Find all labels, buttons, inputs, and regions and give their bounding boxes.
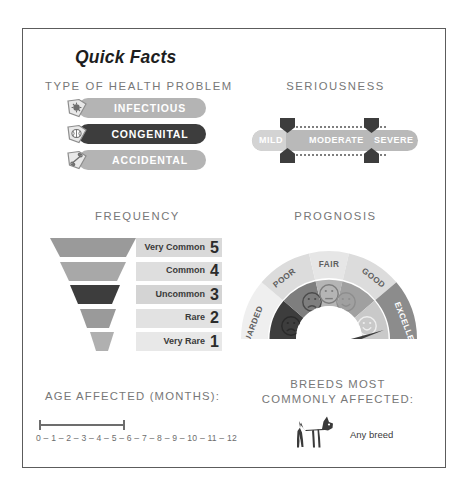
frequency-label-3: Uncommon	[156, 290, 206, 300]
frequency-bar-4	[60, 262, 126, 281]
seriousness-scale[interactable]: MILD MODERATE SEVERE	[252, 122, 418, 158]
breeds-affected: Any breed	[292, 414, 393, 454]
frequency-row-uncommon[interactable]: Uncommon 3	[50, 285, 222, 307]
frequency-row-very-rare[interactable]: Very Rare 1	[50, 332, 222, 354]
bone-shield-icon	[66, 150, 88, 170]
frequency-value-1: 1	[210, 334, 219, 350]
dog-silhouette-icon	[292, 414, 338, 454]
badge-accidental[interactable]: ACCIDENTAL	[66, 150, 206, 170]
frequency-label-4: Common	[166, 266, 205, 276]
badge-infectious-label: INFECTIOUS	[114, 102, 186, 114]
frequency-strip-5: Very Common 5	[136, 238, 222, 257]
badge-congenital[interactable]: CONGENITAL	[66, 124, 206, 144]
frequency-bar-1	[90, 332, 114, 351]
frequency-row-rare[interactable]: Rare 2	[50, 309, 222, 331]
section-header-seriousness: SERIOUSNESS	[258, 80, 413, 92]
age-axis-labels: 0 – 1 – 2 – 3 – 4 – 5 – 6 – 7 – 8 – 9 – …	[36, 433, 237, 443]
prognosis-gauge: GUARDED POOR FAIR GOOD EXCELLENT	[236, 234, 422, 356]
frequency-value-4: 4	[210, 263, 219, 279]
frequency-row-common[interactable]: Common 4	[50, 262, 222, 284]
seriousness-label-mild: MILD	[259, 135, 283, 145]
badge-accidental-label: ACCIDENTAL	[112, 154, 188, 166]
section-header-frequency: FREQUENCY	[45, 210, 230, 222]
section-header-breeds-line1: BREEDS MOST	[258, 378, 418, 390]
section-header-type: TYPE OF HEALTH PROBLEM	[45, 80, 230, 92]
age-range-bar	[39, 424, 125, 426]
frequency-strip-1: Very Rare 1	[136, 332, 222, 351]
seriousness-label-moderate: MODERATE	[309, 135, 364, 145]
frequency-strip-3: Uncommon 3	[136, 285, 222, 304]
badge-congenital-label: CONGENITAL	[111, 128, 188, 140]
frequency-label-2: Rare	[185, 313, 205, 323]
frequency-strip-4: Common 4	[136, 262, 222, 281]
page-title: Quick Facts	[67, 47, 184, 68]
prognosis-label-fair: FAIR	[319, 260, 340, 269]
frequency-row-very-common[interactable]: Very Common 5	[50, 238, 222, 260]
section-header-age: AGE AFFECTED (MONTHS):	[35, 390, 230, 402]
frequency-value-5: 5	[210, 240, 219, 256]
seriousness-label-severe: SEVERE	[374, 135, 414, 145]
frequency-label-1: Very Rare	[164, 337, 206, 347]
age-range-start-cap	[39, 420, 41, 430]
frequency-value-3: 3	[210, 287, 219, 303]
breed-value: Any breed	[350, 429, 393, 440]
frequency-bar-3	[70, 285, 120, 304]
badge-infectious[interactable]: INFECTIOUS	[66, 98, 206, 118]
frequency-bar-2	[80, 309, 116, 328]
age-range-end-cap	[123, 420, 125, 430]
frequency-bar-5	[50, 238, 136, 257]
type-of-problem-list: INFECTIOUS CONGENITAL	[66, 98, 206, 176]
section-header-prognosis: PROGNOSIS	[258, 210, 413, 222]
frequency-label-5: Very Common	[145, 243, 206, 253]
brain-shield-icon	[66, 124, 88, 144]
section-header-breeds-line2: COMMONLY AFFECTED:	[258, 393, 418, 405]
frequency-value-2: 2	[210, 310, 219, 326]
frequency-funnel: Very Common 5 Common 4 Uncommon 3 Rare 2	[50, 238, 222, 356]
germ-shield-icon	[66, 98, 88, 118]
frequency-strip-2: Rare 2	[136, 309, 222, 328]
